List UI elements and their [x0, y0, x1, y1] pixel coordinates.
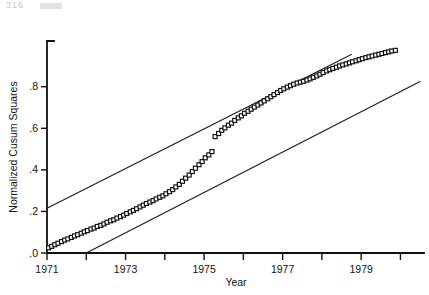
x-tick-label-0: 1971 — [35, 263, 59, 275]
y-axis-title: Normalized Cusum Squares — [7, 81, 19, 212]
y-tick-label-1: .2 — [29, 205, 38, 217]
y-axis-line — [47, 41, 54, 253]
data-marker — [210, 150, 214, 154]
data-point-markers — [47, 48, 398, 249]
data-marker — [393, 48, 397, 52]
x-axis-ticks — [47, 253, 400, 260]
y-axis-tick-labels: .0.2.4.6.8 — [29, 80, 38, 258]
x-tick-label-3: 1977 — [271, 263, 295, 275]
cusum-squares-chart: .0.2.4.6.8 19711973197519771979 Year Nor… — [0, 0, 429, 295]
x-axis-tick-labels: 19711973197519771979 — [35, 263, 373, 275]
x-tick-label-4: 1979 — [349, 263, 373, 275]
y-tick-label-0: .0 — [29, 247, 38, 259]
y-tick-label-2: .4 — [29, 163, 38, 175]
chart-axes — [47, 41, 424, 253]
figure-root: 316 .0.2.4.6.8 19711973197519771979 Year… — [0, 0, 429, 295]
x-tick-label-1: 1973 — [114, 263, 138, 275]
y-tick-label-4: .8 — [29, 80, 38, 92]
y-tick-label-3: .6 — [29, 122, 38, 134]
x-axis-title: Year — [225, 276, 247, 288]
x-tick-label-2: 1975 — [192, 263, 216, 275]
